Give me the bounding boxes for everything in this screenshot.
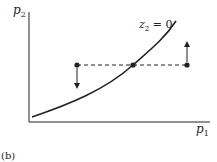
right-point <box>184 62 189 67</box>
curve-label: z2 = 0 <box>138 18 172 33</box>
equilibrium-point <box>130 62 135 67</box>
left-point <box>74 62 79 67</box>
curve-z2-zero <box>32 21 176 117</box>
y-axis-label: p2 <box>13 3 26 19</box>
diagram-canvas: p2 p1 z2 = 0 (b) <box>0 0 217 162</box>
x-axis-label: p1 <box>196 122 209 138</box>
figure-caption: (b) <box>1 150 15 161</box>
